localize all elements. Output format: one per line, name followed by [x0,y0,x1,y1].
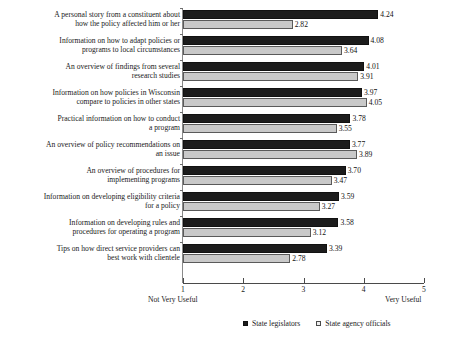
bar-state-legislators [183,140,350,149]
value-axis-tick-label: 3 [294,285,314,294]
value-axis-tick [243,278,244,283]
legend-label-series-a: State legislators [252,319,300,328]
chart-row: An overview of procedures for implementi… [0,164,459,190]
bar-value-label: 4.01 [366,62,379,71]
chart-row: Information on developing eligibility cr… [0,190,459,216]
bar-value-label: 4.24 [380,10,393,19]
bar-value-label: 3.12 [313,228,326,237]
category-tick [180,138,183,139]
bar-value-label: 3.77 [352,140,365,149]
category-tick [180,242,183,243]
chart-row: An overview of policy recommendations on… [0,138,459,164]
bar-state-legislators [183,192,339,201]
category-tick [180,34,183,35]
value-axis-tick-label: 5 [414,285,434,294]
chart-row: Practical information on how to conduct … [0,112,459,138]
category-label: Information on how policies in Wisconsin… [0,86,180,106]
legend-label-series-b: State agency officials [325,319,390,328]
category-label: A personal story from a constituent abou… [0,8,180,28]
bar-state-legislators [183,218,338,227]
bar-value-label: 3.39 [329,244,342,253]
chart-row: Information on how to adapt policies or … [0,34,459,60]
value-axis-tick [304,278,305,283]
bar-state-agency-officials [183,176,332,185]
bar-state-legislators [183,244,327,253]
bar-state-agency-officials [183,20,293,29]
bar-state-legislators [183,114,350,123]
legend-item-state-legislators: State legislators [243,319,300,328]
bar-state-agency-officials [183,124,337,133]
bar-state-legislators [183,10,378,19]
value-axis-tick [424,278,425,283]
bar-state-legislators [183,166,346,175]
chart-row: An overview of findings from several res… [0,60,459,86]
chart-rows: A personal story from a constituent abou… [0,8,459,268]
legend-item-state-agency-officials: State agency officials [316,319,390,328]
bar-value-label: 4.05 [369,98,382,107]
bar-value-label: 3.58 [340,218,353,227]
category-label: Information on developing eligibility cr… [0,190,180,210]
scale-anchor-high-label: Very Useful [385,295,421,304]
value-axis-line [183,283,424,284]
bar-value-label: 3.64 [344,46,357,55]
category-label: An overview of procedures for implementi… [0,164,180,184]
category-tick [180,190,183,191]
chart-row: Information on how policies in Wisconsin… [0,86,459,112]
bar-state-agency-officials [183,202,320,211]
bar-value-label: 3.47 [334,176,347,185]
horizontal-grouped-bar-chart: A personal story from a constituent abou… [0,0,459,341]
bar-value-label: 3.78 [352,114,365,123]
category-tick [180,8,183,9]
value-axis-tick-label: 2 [233,285,253,294]
category-tick [180,60,183,61]
bar-value-label: 3.59 [341,192,354,201]
bar-state-agency-officials [183,254,290,263]
category-label: Information on developing rules and proc… [0,216,180,236]
value-axis-tick-label: 4 [354,285,374,294]
chart-legend: State legislators State agency officials [243,319,391,328]
bar-state-legislators [183,88,362,97]
bar-value-label: 3.70 [348,166,361,175]
value-axis-tick-label: 1 [173,285,193,294]
chart-row: Tips on how direct service providers can… [0,242,459,268]
bar-state-agency-officials [183,98,367,107]
legend-swatch-icon-series-a [243,321,248,326]
bar-state-agency-officials [183,150,357,159]
bar-value-label: 3.27 [322,202,335,211]
value-axis-tick [183,278,184,283]
legend-swatch-icon-series-b [316,321,321,326]
category-label: Practical information on how to conduct … [0,112,180,132]
bar-state-agency-officials [183,228,311,237]
bar-state-legislators [183,36,369,45]
category-tick [180,86,183,87]
bar-value-label: 2.82 [295,20,308,29]
scale-anchor-low-label: Not Very Useful [148,295,198,304]
bar-value-label: 3.97 [364,88,377,97]
bar-value-label: 3.55 [339,124,352,133]
bar-value-label: 3.91 [360,72,373,81]
bar-value-label: 3.89 [359,150,372,159]
bar-state-legislators [183,62,364,71]
category-tick [180,216,183,217]
chart-row: Information on developing rules and proc… [0,216,459,242]
category-label: An overview of policy recommendations on… [0,138,180,158]
value-axis-tick [364,278,365,283]
category-label: An overview of findings from several res… [0,60,180,80]
category-label: Tips on how direct service providers can… [0,242,180,262]
bar-value-label: 2.78 [292,254,305,263]
chart-row: A personal story from a constituent abou… [0,8,459,34]
category-tick [180,164,183,165]
bar-state-agency-officials [183,46,342,55]
category-tick [180,112,183,113]
bar-state-agency-officials [183,72,358,81]
category-label: Information on how to adapt policies or … [0,34,180,54]
bar-value-label: 4.08 [371,36,384,45]
